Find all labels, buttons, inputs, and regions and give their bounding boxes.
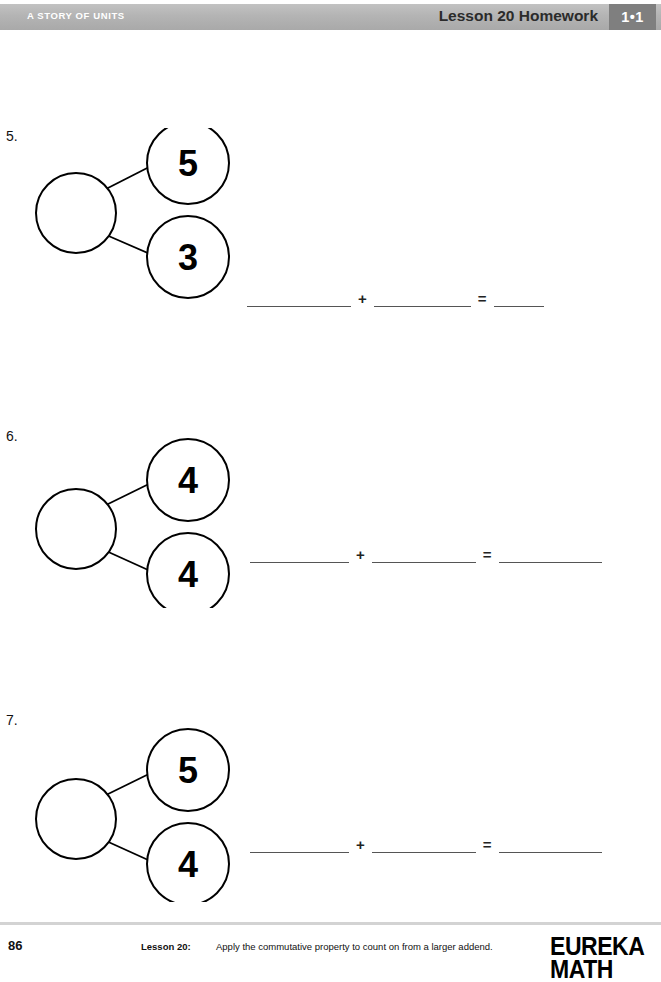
equation-blank-addend-1[interactable] bbox=[250, 547, 349, 563]
number-bond-diagram: 5 4 bbox=[20, 712, 255, 902]
footer-lesson-label: Lesson 20: bbox=[141, 941, 191, 952]
equation-blank-sum[interactable] bbox=[494, 291, 544, 307]
lesson-title: Lesson 20 Homework bbox=[439, 7, 598, 25]
footer-lesson-description: Apply the commutative property to count … bbox=[216, 941, 493, 952]
logo-line-math: MATH bbox=[550, 958, 644, 981]
equation-blank-addend-1[interactable] bbox=[250, 837, 349, 853]
bond-part-bottom-value: 4 bbox=[178, 844, 198, 885]
plus-sign: + bbox=[349, 837, 372, 853]
problem-number: 7. bbox=[6, 712, 18, 728]
equation-row: + = bbox=[250, 831, 602, 853]
equation-row: + = bbox=[247, 285, 544, 307]
equation-blank-addend-2[interactable] bbox=[372, 547, 476, 563]
bond-part-top-value: 4 bbox=[178, 460, 198, 501]
curriculum-title: A STORY OF UNITS bbox=[27, 10, 125, 21]
plus-sign: + bbox=[351, 291, 374, 307]
problem-number: 5. bbox=[6, 128, 18, 144]
equation-blank-sum[interactable] bbox=[499, 837, 602, 853]
footer-divider bbox=[0, 922, 661, 925]
module-badge-label: 1•1 bbox=[621, 9, 644, 25]
equals-sign: = bbox=[471, 291, 494, 307]
module-badge: 1•1 bbox=[609, 4, 656, 30]
eureka-math-logo: EUREKA MATH bbox=[550, 935, 653, 981]
equation-row: + = bbox=[250, 541, 602, 563]
equation-blank-addend-2[interactable] bbox=[372, 837, 476, 853]
problem-number: 6. bbox=[6, 428, 18, 444]
equation-blank-addend-1[interactable] bbox=[247, 291, 351, 307]
bond-part-bottom-value: 3 bbox=[178, 237, 198, 278]
equals-sign: = bbox=[476, 547, 499, 563]
equation-blank-addend-2[interactable] bbox=[374, 291, 471, 307]
equation-blank-sum[interactable] bbox=[499, 547, 602, 563]
page-number: 86 bbox=[8, 938, 22, 953]
bond-part-bottom-value: 4 bbox=[178, 554, 198, 595]
bond-part-top-value: 5 bbox=[178, 143, 198, 184]
bond-part-top-value: 5 bbox=[178, 750, 198, 791]
plus-sign: + bbox=[349, 547, 372, 563]
number-bond-diagram: 5 3 bbox=[20, 128, 255, 308]
number-bond-diagram: 4 4 bbox=[20, 428, 255, 608]
equals-sign: = bbox=[476, 837, 499, 853]
